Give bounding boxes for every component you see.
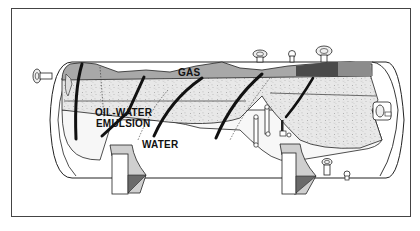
water-label: WATER <box>142 139 179 150</box>
emulsion-label-line2: EMULSION <box>96 118 150 129</box>
emulsion-label-line1: OIL-WATER <box>95 107 153 118</box>
separator-diagram: GAS OIL-WATER EMULSION WATER <box>0 0 420 231</box>
top-relief-valve <box>289 51 296 63</box>
top-flanged-nozzle-1 <box>253 50 267 62</box>
bottom-relief-plug <box>344 171 350 180</box>
top-flanged-nozzle-2 <box>316 46 332 62</box>
outlet-nozzle <box>373 102 391 120</box>
gas-label: GAS <box>178 67 200 78</box>
